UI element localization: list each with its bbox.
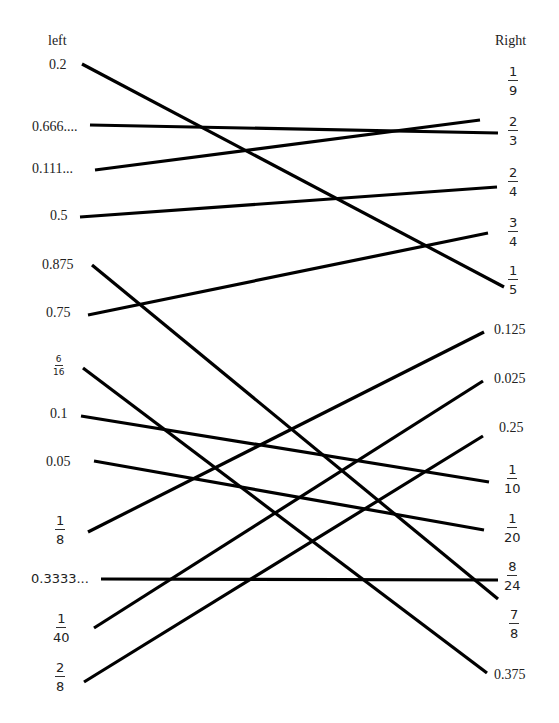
right-item-8-24: 8 24 bbox=[504, 560, 521, 592]
denominator: 8 bbox=[56, 677, 64, 693]
right-item-0-125: 0.125 bbox=[494, 323, 526, 337]
right-item-1-10: 1 10 bbox=[504, 463, 521, 495]
numerator: 6 bbox=[55, 355, 63, 366]
numerator: 2 bbox=[55, 661, 65, 677]
left-column-header: left bbox=[48, 33, 67, 49]
denominator: 3 bbox=[509, 131, 517, 147]
right-item-0-25: 0.25 bbox=[499, 421, 524, 435]
right-item-2-3: 2 3 bbox=[508, 115, 518, 147]
denominator: 5 bbox=[509, 280, 517, 296]
denominator: 40 bbox=[53, 628, 70, 644]
right-item-2-4: 2 4 bbox=[508, 166, 518, 198]
left-item-0-666: 0.666.... bbox=[32, 120, 78, 134]
denominator: 9 bbox=[509, 81, 517, 97]
connection-lines bbox=[0, 0, 559, 723]
left-item-0-75: 0.75 bbox=[46, 306, 71, 320]
left-item-0-05: 0.05 bbox=[46, 455, 71, 469]
left-item-0-111: 0.111... bbox=[32, 162, 73, 176]
numerator: 3 bbox=[508, 216, 518, 232]
left-item-1-40: 1 40 bbox=[53, 612, 70, 644]
numerator: 1 bbox=[507, 463, 517, 479]
numerator: 2 bbox=[508, 166, 518, 182]
connection-line bbox=[81, 416, 489, 482]
connection-line bbox=[94, 381, 483, 628]
denominator: 8 bbox=[510, 624, 518, 640]
right-item-7-8: 7 8 bbox=[509, 608, 519, 640]
numerator: 1 bbox=[55, 514, 65, 530]
connection-line bbox=[92, 265, 498, 599]
numerator: 7 bbox=[509, 608, 519, 624]
denominator: 16 bbox=[53, 366, 64, 377]
right-item-0-025: 0.025 bbox=[494, 372, 526, 386]
left-item-0-3333: 0.3333... bbox=[31, 572, 89, 585]
connection-line bbox=[82, 64, 504, 287]
right-item-1-5: 1 5 bbox=[508, 264, 518, 296]
left-item-2-8: 2 8 bbox=[55, 661, 65, 693]
numerator: 2 bbox=[508, 115, 518, 131]
left-item-0-875: 0.875 bbox=[42, 258, 74, 272]
denominator: 4 bbox=[509, 182, 517, 198]
connection-line bbox=[88, 233, 488, 315]
numerator: 1 bbox=[508, 65, 518, 81]
numerator: 1 bbox=[507, 512, 517, 528]
numerator: 1 bbox=[508, 264, 518, 280]
right-column-header: Right bbox=[495, 33, 526, 49]
denominator: 8 bbox=[56, 530, 64, 546]
right-item-1-20: 1 20 bbox=[504, 512, 521, 544]
left-item-0-1: 0.1 bbox=[50, 407, 68, 421]
connection-line bbox=[84, 436, 483, 682]
left-item-0-2: 0.2 bbox=[49, 58, 67, 72]
connection-line bbox=[88, 332, 484, 532]
connection-line bbox=[80, 187, 497, 217]
numerator: 1 bbox=[56, 612, 66, 628]
left-item-0-5: 0.5 bbox=[50, 209, 68, 223]
denominator: 24 bbox=[504, 576, 521, 592]
connection-line bbox=[101, 579, 498, 580]
denominator: 4 bbox=[509, 232, 517, 248]
right-item-3-4: 3 4 bbox=[508, 216, 518, 248]
denominator: 20 bbox=[504, 528, 521, 544]
right-item-1-9: 1 9 bbox=[508, 65, 518, 97]
right-item-0-375: 0.375 bbox=[494, 668, 526, 682]
left-item-1-8: 1 8 bbox=[55, 514, 65, 546]
left-item-6-16: 6 16 bbox=[53, 355, 64, 377]
denominator: 10 bbox=[504, 479, 521, 495]
numerator: 8 bbox=[507, 560, 517, 576]
